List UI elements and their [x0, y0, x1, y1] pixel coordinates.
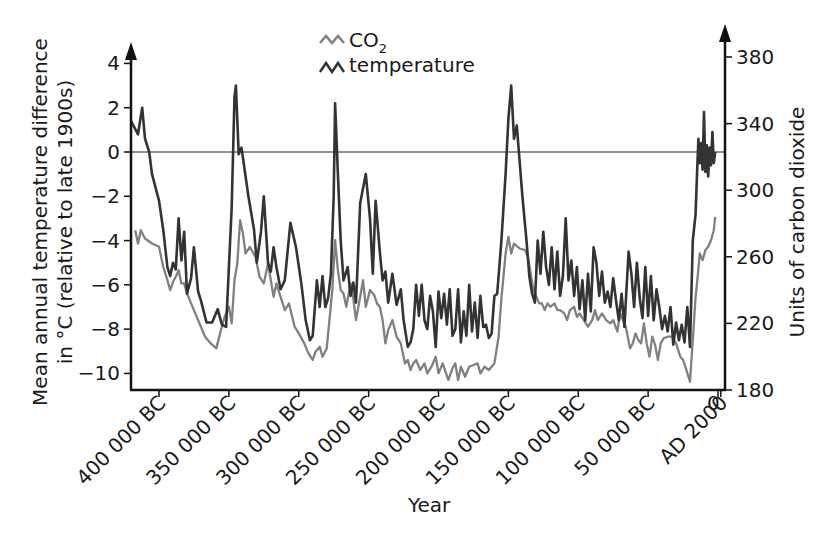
legend: CO2 temperature [320, 28, 475, 77]
co2-legend-icon [320, 36, 344, 43]
x-axis: 400 000 BC350 000 BC300 000 BC250 000 BC… [71, 390, 732, 490]
climate-chart: 420−2−4−6−8−10 380340300260220180 400 00… [0, 0, 827, 541]
right-tick-label: 340 [736, 112, 774, 136]
co2-series-line [135, 217, 715, 382]
right-tick-label: 180 [736, 378, 774, 402]
right-tick-label: 220 [736, 311, 774, 335]
temperature-legend-icon [320, 63, 344, 72]
legend-item-co2: CO2 [320, 28, 387, 56]
legend-item-temperature: temperature [320, 53, 475, 77]
left-axis-title-line1: Mean annual temperature difference [28, 38, 52, 406]
right-tick-label: 260 [736, 245, 774, 269]
x-zero-label: 0 [707, 391, 720, 415]
svg-text:CO2: CO2 [349, 28, 387, 56]
legend-temperature-label: temperature [349, 53, 475, 77]
left-tick-label: 2 [107, 96, 120, 120]
left-tick-label: 0 [107, 140, 120, 164]
right-tick-label: 380 [736, 45, 774, 69]
right-tick-label: 300 [736, 178, 774, 202]
legend-co2-label: CO [349, 28, 379, 52]
left-tick-label: −6 [91, 273, 120, 297]
left-axis-arrow-icon [125, 42, 137, 60]
left-axis-title-line2: in °C (relative to late 1900s) [53, 80, 77, 364]
right-axis-arrow-icon [719, 24, 731, 42]
left-tick-label: 4 [107, 51, 120, 75]
left-tick-label: −10 [78, 361, 120, 385]
right-axis-title: Units of carbon dioxide [785, 107, 809, 338]
right-y-axis: 380340300260220180 [719, 24, 774, 402]
left-tick-label: −8 [91, 317, 120, 341]
left-tick-label: −2 [91, 184, 120, 208]
x-tick-label: AD 2000 [654, 391, 732, 469]
left-y-axis: 420−2−4−6−8−10 [78, 42, 137, 390]
x-axis-title: Year [407, 493, 451, 517]
left-tick-label: −4 [91, 229, 120, 253]
temperature-series-line [131, 86, 715, 347]
